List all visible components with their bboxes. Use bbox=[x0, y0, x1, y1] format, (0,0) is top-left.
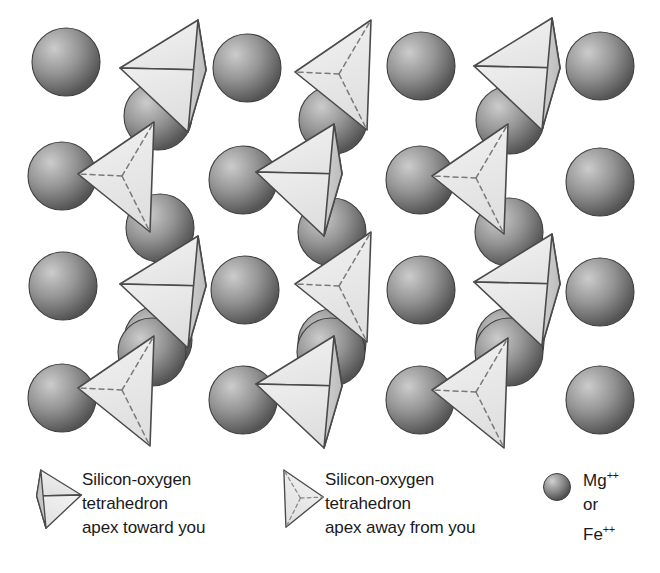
legend-toward-line-1: Silicon-oxygen bbox=[82, 468, 205, 492]
cation-sphere bbox=[211, 256, 279, 324]
cation-sphere bbox=[566, 366, 634, 434]
legend-ion-line-2: or bbox=[583, 493, 618, 517]
cation-sphere bbox=[387, 256, 455, 324]
cation-sphere bbox=[209, 366, 277, 434]
cation-sphere bbox=[29, 252, 97, 320]
ion-or-base: or bbox=[583, 495, 598, 514]
legend-label-away: Silicon-oxygen tetrahedron apex away fro… bbox=[325, 468, 475, 540]
tetrahedron-apex-away-icon bbox=[284, 470, 324, 527]
cation-sphere bbox=[566, 148, 634, 216]
cation-sphere bbox=[32, 28, 100, 96]
crystal-lattice bbox=[0, 0, 660, 460]
tetrahedron-apex-away bbox=[78, 336, 154, 446]
ion-mg-base: Mg bbox=[583, 471, 607, 490]
legend-away-line-1: Silicon-oxygen bbox=[325, 468, 475, 492]
legend-away-line-2: tetrahedron bbox=[325, 492, 475, 516]
legend-ion-line-1: Mg++ bbox=[583, 463, 618, 493]
legend-ion-line-3: Fe++ bbox=[583, 517, 618, 547]
figure-canvas: Silicon-oxygen tetrahedron apex toward y… bbox=[0, 0, 660, 573]
legend: Silicon-oxygen tetrahedron apex toward y… bbox=[0, 460, 660, 573]
cation-sphere bbox=[566, 32, 634, 100]
cation-sphere bbox=[213, 34, 281, 102]
tetrahedron-apex-away bbox=[78, 122, 154, 232]
tetrahedron-apex-toward-icon bbox=[37, 470, 82, 528]
legend-toward-line-3: apex toward you bbox=[82, 516, 205, 540]
ion-fe-charge: ++ bbox=[603, 523, 615, 535]
cation-sphere bbox=[28, 364, 96, 432]
tetrahedron-apex-away bbox=[432, 338, 508, 448]
ion-fe-base: Fe bbox=[583, 524, 603, 543]
cation-sphere bbox=[566, 258, 634, 326]
cation-sphere bbox=[387, 32, 455, 100]
legend-label-toward: Silicon-oxygen tetrahedron apex toward y… bbox=[82, 468, 205, 540]
tetrahedron-apex-away bbox=[432, 124, 508, 234]
legend-away-line-3: apex away from you bbox=[325, 516, 475, 540]
legend-toward-line-2: tetrahedron bbox=[82, 492, 205, 516]
ion-mg-charge: ++ bbox=[607, 469, 619, 481]
cation-sphere-icon bbox=[544, 474, 571, 501]
legend-label-ion: Mg++ or Fe++ bbox=[583, 463, 618, 546]
tetrahedron-apex-toward bbox=[256, 124, 342, 236]
